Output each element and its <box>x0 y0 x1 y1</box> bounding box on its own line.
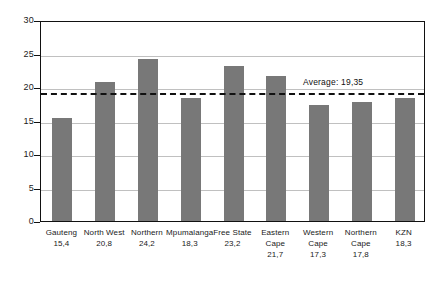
bar <box>266 76 286 221</box>
bars-group <box>41 22 424 221</box>
x-axis-category-label: KZN18,3 <box>377 227 431 249</box>
category-value-label: 18,3 <box>377 238 431 249</box>
bar-chart: 051015202530 Average: 19,35 Gauteng15,4N… <box>0 0 443 284</box>
y-axis-tick-label: 0 <box>4 217 34 226</box>
y-axis-tick-label: 10 <box>4 150 34 159</box>
y-axis-tick-label: 15 <box>4 117 34 126</box>
y-axis-tick-label: 30 <box>4 16 34 25</box>
average-reference-line <box>41 93 424 95</box>
y-axis-tick-mark <box>34 222 40 223</box>
bar <box>352 102 372 221</box>
y-axis-tick-label: 5 <box>4 184 34 193</box>
category-value-label: 17,8 <box>334 249 388 260</box>
average-annotation-label: Average: 19,35 <box>303 77 363 87</box>
x-axis-labels: Gauteng15,4North West20,8Northern24,2Mpu… <box>40 227 425 282</box>
bar <box>138 59 158 221</box>
y-axis-tick-label: 20 <box>4 83 34 92</box>
bar <box>181 98 201 221</box>
bar <box>95 82 115 221</box>
bar <box>52 118 72 221</box>
category-name-line: KZN <box>377 227 431 238</box>
plot-area: Average: 19,35 <box>40 21 425 222</box>
bar <box>395 98 415 221</box>
bar <box>224 66 244 221</box>
bar <box>309 105 329 221</box>
y-axis-tick-label: 25 <box>4 50 34 59</box>
